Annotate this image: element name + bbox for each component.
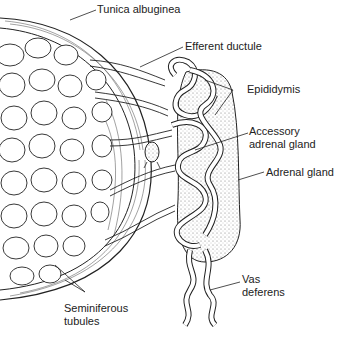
accessory-adrenal-gland xyxy=(144,142,160,168)
anatomy-diagram: Tunica albuginea Efferent ductule Epidid… xyxy=(0,0,350,348)
label-accessory-line2: adrenal gland xyxy=(249,138,316,150)
label-seminiferous-line1: Seminiferous xyxy=(64,302,128,314)
testis xyxy=(0,18,151,300)
label-efferent-ductule: Efferent ductule xyxy=(185,40,262,52)
label-seminiferous-line2: tubules xyxy=(64,315,99,327)
label-tunica-albuginea: Tunica albuginea xyxy=(97,3,180,15)
label-epididymis: Epididymis xyxy=(247,83,300,95)
label-vas-line2: deferens xyxy=(242,286,285,298)
label-accessory-line1: Accessory xyxy=(249,125,300,137)
label-adrenal-gland: Adrenal gland xyxy=(266,166,334,178)
label-vas-line1: Vas xyxy=(242,273,260,285)
